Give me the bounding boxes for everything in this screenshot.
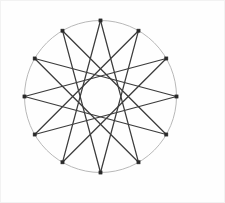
vertex-marker [99,171,102,174]
vertex-marker [61,29,64,32]
vertex-marker [33,133,36,136]
vertex-marker [23,95,26,98]
vertex-markers-layer [23,19,178,174]
vertex-marker [137,29,140,32]
vertex-marker [165,57,168,60]
vertex-marker [33,57,36,60]
vertex-marker [99,19,102,22]
star-polygon-figure [0,0,225,203]
circumscribed-circle-layer [25,21,177,173]
vertex-marker [61,161,64,164]
vertex-marker [137,161,140,164]
star-chords-layer [25,21,177,173]
circumscribed-circle [25,21,177,173]
vertex-marker [165,133,168,136]
vertex-marker [175,95,178,98]
figure-canvas [0,0,225,203]
